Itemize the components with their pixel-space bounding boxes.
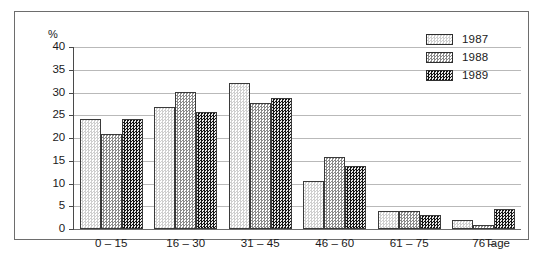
y-tick-label: 40 (39, 40, 65, 52)
y-tick-label: 15 (39, 154, 65, 166)
bar-1987-4 (378, 211, 399, 229)
bar-1989-4 (420, 215, 441, 229)
bar-1989-3 (345, 166, 366, 229)
y-tick-mark (69, 138, 74, 139)
bar-1989-1 (196, 112, 217, 229)
y-tick-mark (69, 161, 74, 162)
x-category-label: 31 – 45 (223, 237, 298, 249)
bar-1987-5 (452, 220, 473, 229)
y-tick-mark (69, 70, 74, 71)
legend-item-1989: 1989 (426, 66, 521, 84)
bar-1988-5 (473, 225, 494, 229)
y-tick-mark (69, 184, 74, 185)
bar-1987-2 (229, 83, 250, 229)
bar-1988-2 (250, 103, 271, 229)
bar-1987-0 (80, 119, 101, 229)
legend-label: 1987 (462, 33, 488, 45)
bar-1987-3 (303, 181, 324, 229)
y-tick-label: 20 (39, 131, 65, 143)
legend-label: 1989 (462, 69, 488, 81)
gridline (74, 229, 521, 230)
chart-legend: 198719881989 (426, 30, 521, 84)
x-category-label: 16 – 30 (149, 237, 224, 249)
x-category-label: 46 – 60 (298, 237, 373, 249)
x-category-label: 0 – 15 (74, 237, 149, 249)
x-category-label: 61 – 75 (372, 237, 447, 249)
bar-group (80, 47, 143, 229)
legend-item-1988: 1988 (426, 48, 521, 66)
bar-group (154, 47, 217, 229)
y-tick-mark (69, 115, 74, 116)
y-tick-label: 10 (39, 177, 65, 189)
bar-group (303, 47, 366, 229)
chart-frame: % 0510152025303540 0 – 1516 – 3031 – 454… (14, 11, 529, 240)
y-axis-unit-label: % (48, 28, 58, 40)
bar-1989-5 (494, 209, 515, 229)
y-tick-mark (69, 93, 74, 94)
y-tick-label: 30 (39, 86, 65, 98)
y-tick-mark (69, 47, 74, 48)
legend-swatch-icon (426, 70, 453, 81)
bar-1988-1 (175, 92, 196, 229)
y-tick-mark (69, 229, 74, 230)
bar-1987-1 (154, 107, 175, 229)
legend-label: 1988 (462, 51, 488, 63)
bar-1988-3 (324, 157, 345, 229)
bar-1989-2 (271, 98, 292, 229)
chart-screenshot: % 0510152025303540 0 – 1516 – 3031 – 454… (0, 0, 543, 253)
legend-swatch-icon (426, 52, 453, 63)
x-axis-unit-label: Tage (485, 237, 510, 249)
legend-item-1987: 1987 (426, 30, 521, 48)
legend-swatch-icon (426, 34, 453, 45)
y-tick-label: 25 (39, 108, 65, 120)
bar-1988-4 (399, 211, 420, 229)
bar-1988-0 (101, 134, 122, 229)
bar-group (229, 47, 292, 229)
y-tick-label: 0 (39, 222, 65, 234)
y-tick-label: 35 (39, 63, 65, 75)
bar-1989-0 (122, 119, 143, 229)
y-tick-mark (69, 206, 74, 207)
y-tick-label: 5 (39, 199, 65, 211)
